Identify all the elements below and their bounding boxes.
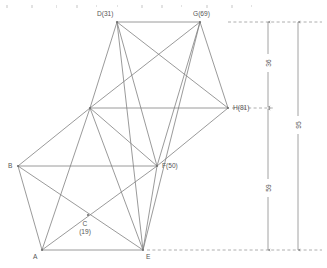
label-F: F(50)	[162, 162, 178, 170]
edge-G-F	[157, 22, 200, 166]
edge-D-H	[117, 22, 228, 108]
dim-59-label: 59	[265, 184, 272, 192]
vertex-D	[116, 21, 118, 23]
scan-speck	[251, 5, 252, 7]
edge-G-E	[143, 22, 200, 250]
vertex-E	[142, 249, 144, 251]
vertex-labels: D(31)G(69)H(81)BF(50)AEC(19)	[8, 10, 250, 260]
geometry-diagram: D(31)G(69)H(81)BF(50)AEC(19) 365995	[0, 0, 327, 268]
edge-K-F	[90, 108, 157, 166]
label-E: E	[146, 253, 151, 260]
label-A: A	[33, 253, 38, 260]
scan-speck	[181, 5, 182, 7]
scan-artifacts	[6, 5, 252, 8]
edge-F-E	[143, 166, 157, 250]
vertex-F	[156, 165, 158, 167]
edge-G-K	[90, 22, 200, 108]
extension-lines	[147, 22, 322, 250]
edge-B-A	[18, 166, 42, 250]
label-D: D(31)	[97, 10, 114, 18]
vertex-markers	[17, 21, 229, 251]
label-H: H(81)	[233, 104, 250, 112]
edge-K-B	[18, 108, 90, 166]
dimension-labels: 365995	[265, 59, 302, 192]
label-C: C	[83, 220, 88, 227]
scan-speck	[206, 5, 208, 8]
dim-95-label: 95	[295, 121, 302, 129]
scan-speck	[161, 5, 163, 8]
label-C-value: (19)	[79, 228, 91, 236]
vertex-A	[41, 249, 43, 251]
scan-speck	[96, 5, 97, 7]
scan-speck	[141, 5, 143, 8]
edge-G-H	[200, 22, 228, 108]
label-G: G(69)	[193, 10, 210, 18]
edge-F-A	[42, 166, 157, 250]
vertex-G	[199, 21, 201, 23]
vertex-C	[87, 214, 89, 216]
edge-network	[18, 22, 228, 250]
vertex-B	[17, 165, 19, 167]
edge-D-K	[90, 22, 117, 108]
dimension-lines	[268, 22, 298, 250]
scan-speck	[56, 5, 57, 8]
scan-speck	[231, 5, 233, 8]
edge-B-E	[18, 166, 143, 250]
scan-speck	[117, 5, 118, 7]
label-B: B	[8, 162, 13, 169]
scan-speck	[76, 5, 78, 8]
edge-D-F	[117, 22, 157, 166]
dim-36-label: 36	[265, 59, 272, 67]
vertex-H	[227, 107, 229, 109]
scan-speck	[31, 5, 33, 8]
edge-H-F	[157, 108, 228, 166]
vertex-K	[89, 107, 91, 109]
scan-speck	[6, 5, 8, 8]
figure-canvas: D(31)G(69)H(81)BF(50)AEC(19) 365995	[0, 0, 327, 268]
